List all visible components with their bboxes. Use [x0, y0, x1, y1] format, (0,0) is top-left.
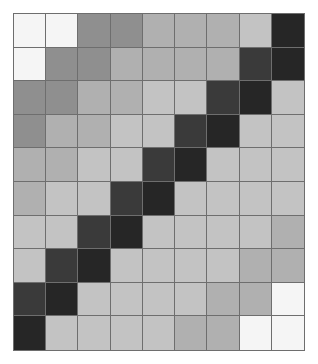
heatmap-cell	[240, 216, 272, 250]
heatmap-cell	[78, 48, 110, 82]
heatmap-cell	[240, 48, 272, 82]
heatmap-cell	[111, 316, 143, 350]
heatmap-cell	[46, 14, 78, 48]
heatmap-cell	[78, 316, 110, 350]
heatmap-cell	[46, 81, 78, 115]
heatmap-cell	[78, 81, 110, 115]
heatmap-cell	[240, 182, 272, 216]
heatmap-cell	[175, 14, 207, 48]
heatmap-cell	[143, 216, 175, 250]
heatmap-cell	[78, 283, 110, 317]
heatmap-cell	[272, 316, 304, 350]
heatmap-cell	[143, 148, 175, 182]
heatmap-cell	[272, 81, 304, 115]
heatmap-cell	[207, 216, 239, 250]
heatmap-cell	[111, 115, 143, 149]
heatmap-cell	[78, 148, 110, 182]
heatmap-cell	[240, 249, 272, 283]
heatmap-cell	[240, 316, 272, 350]
heatmap-cell	[111, 283, 143, 317]
heatmap-cell	[207, 182, 239, 216]
heatmap-cell	[240, 115, 272, 149]
heatmap-cell	[111, 182, 143, 216]
heatmap-cell	[207, 115, 239, 149]
heatmap-cell	[207, 283, 239, 317]
heatmap-cell	[111, 148, 143, 182]
heatmap-cell	[46, 316, 78, 350]
heatmap-cell	[272, 148, 304, 182]
heatmap-cell	[175, 216, 207, 250]
heatmap-cell	[207, 14, 239, 48]
heatmap-cell	[175, 148, 207, 182]
heatmap-cell	[46, 115, 78, 149]
heatmap-cell	[14, 81, 46, 115]
heatmap-cell	[175, 182, 207, 216]
heatmap-cell	[78, 182, 110, 216]
heatmap-cell	[240, 81, 272, 115]
heatmap-cell	[111, 81, 143, 115]
heatmap-cell	[14, 283, 46, 317]
heatmap-cell	[14, 316, 46, 350]
heatmap-cell	[46, 148, 78, 182]
heatmap-cell	[272, 216, 304, 250]
heatmap-cell	[207, 316, 239, 350]
heatmap-cell	[46, 48, 78, 82]
heatmap-cell	[14, 115, 46, 149]
heatmap-cell	[175, 81, 207, 115]
heatmap-cell	[143, 115, 175, 149]
heatmap-cell	[272, 14, 304, 48]
heatmap-cell	[14, 48, 46, 82]
heatmap-cell	[207, 81, 239, 115]
heatmap-cell	[14, 182, 46, 216]
heatmap-figure	[0, 0, 318, 364]
heatmap-cell	[78, 249, 110, 283]
heatmap-cell	[175, 249, 207, 283]
heatmap-cell	[143, 316, 175, 350]
heatmap-cell	[143, 249, 175, 283]
heatmap-cell	[272, 48, 304, 82]
heatmap-cell	[272, 115, 304, 149]
heatmap-cell	[143, 81, 175, 115]
heatmap-cell	[175, 316, 207, 350]
heatmap-cell	[46, 182, 78, 216]
heatmap-cell	[207, 48, 239, 82]
heatmap-cell	[46, 283, 78, 317]
heatmap-cell	[207, 249, 239, 283]
heatmap-cell	[111, 216, 143, 250]
heatmap-cell	[272, 249, 304, 283]
heatmap-cell	[14, 216, 46, 250]
heatmap-cell	[240, 148, 272, 182]
heatmap-cell	[272, 182, 304, 216]
heatmap-cell	[143, 283, 175, 317]
heatmap-cell	[14, 249, 46, 283]
heatmap-cell	[78, 216, 110, 250]
heatmap-cell	[175, 48, 207, 82]
heatmap-cell	[143, 48, 175, 82]
heatmap-cell	[78, 115, 110, 149]
heatmap-cell	[14, 14, 46, 48]
heatmap-cell	[14, 148, 46, 182]
heatmap-cell	[175, 115, 207, 149]
heatmap-cell	[111, 14, 143, 48]
heatmap-cell	[78, 14, 110, 48]
heatmap-cell	[111, 249, 143, 283]
heatmap-matrix-grid	[13, 13, 305, 351]
heatmap-cell	[272, 283, 304, 317]
heatmap-cell	[175, 283, 207, 317]
heatmap-cell	[143, 182, 175, 216]
heatmap-cell	[111, 48, 143, 82]
heatmap-cell	[46, 249, 78, 283]
heatmap-cell	[240, 283, 272, 317]
heatmap-cell	[240, 14, 272, 48]
heatmap-cell	[207, 148, 239, 182]
heatmap-cell	[46, 216, 78, 250]
heatmap-cell	[143, 14, 175, 48]
